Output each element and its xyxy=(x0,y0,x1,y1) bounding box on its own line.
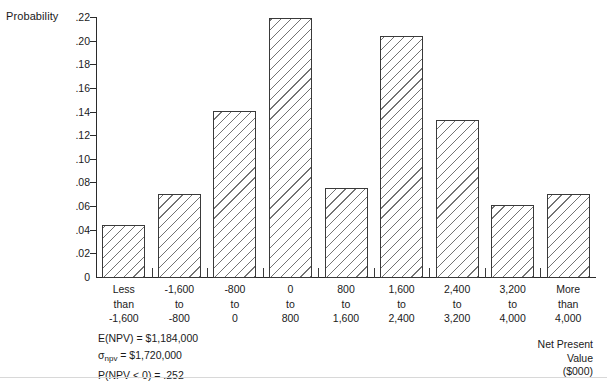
y-axis-tick-mark xyxy=(90,159,97,160)
y-axis-tick-label: .08 xyxy=(60,176,90,188)
y-axis-tick-label: .18 xyxy=(60,58,90,70)
x-axis-caption-line1: Net Present xyxy=(538,338,593,352)
y-axis-tick-label: .06 xyxy=(60,200,90,212)
x-axis-bin-separator xyxy=(429,268,430,278)
x-axis-category-label-line: to xyxy=(429,297,485,312)
y-axis-tick-mark xyxy=(90,182,97,183)
y-axis-tick-label: .02 xyxy=(60,247,90,259)
x-axis-bin-separator xyxy=(207,268,208,278)
y-axis-tick-label: 0 xyxy=(60,271,90,283)
probability-negative-text: P(NPV < 0) = .252 xyxy=(98,367,198,384)
x-axis-category-label-line: 0 xyxy=(263,282,319,297)
x-axis-category-label: -1,600to-800 xyxy=(152,282,208,326)
std-dev-npv-text: σnpv = $1,720,000 xyxy=(98,347,198,368)
y-axis-tick-mark xyxy=(90,112,97,113)
x-axis-category-labels: Lessthan-1,600-1,600to-800-800to00to8008… xyxy=(96,282,596,328)
x-axis-category-label: 2,400to3,200 xyxy=(429,282,485,326)
x-axis-category-label-line: to xyxy=(152,297,208,312)
histogram-bar xyxy=(102,225,145,278)
y-axis-tick-mark xyxy=(90,253,97,254)
y-axis-tick-label: .16 xyxy=(60,82,90,94)
histogram-bar xyxy=(213,111,256,278)
x-axis-category-label-line: 3,200 xyxy=(429,311,485,326)
x-axis-category-label-line: 2,400 xyxy=(374,311,430,326)
x-axis-category-label-line: More xyxy=(540,282,596,297)
x-axis-caption-line2: Value xyxy=(538,352,593,366)
x-axis-category-label-line: 1,600 xyxy=(318,311,374,326)
y-axis-tick-labels: .22.20.18.16.14.12.10.08.06.04.020 xyxy=(58,0,90,386)
histogram-bar xyxy=(380,36,423,278)
x-axis-category-label: 0to800 xyxy=(263,282,319,326)
y-axis-tick-mark xyxy=(90,41,97,42)
y-axis-tick-label: .22 xyxy=(60,11,90,23)
histogram-bar xyxy=(269,18,312,278)
x-axis-category-label-line: -1,600 xyxy=(152,282,208,297)
plot-area xyxy=(96,0,596,278)
x-axis-category-label: -800to0 xyxy=(207,282,263,326)
x-axis-category-label-line: to xyxy=(374,297,430,312)
npv-probability-histogram: Probability .22.20.18.16.14.12.10.08.06.… xyxy=(0,0,607,386)
x-axis-category-label-line: -800 xyxy=(207,282,263,297)
histogram-bar xyxy=(325,188,368,278)
x-axis-category-label-line: 0 xyxy=(207,311,263,326)
sigma-subscript: npv xyxy=(104,354,117,363)
histogram-bar xyxy=(491,205,534,278)
y-axis-tick-mark xyxy=(90,230,97,231)
x-axis-category-label-line: to xyxy=(207,297,263,312)
x-axis-category-label-line: 800 xyxy=(318,282,374,297)
y-axis-tick-label: .12 xyxy=(60,129,90,141)
y-axis-tick-label: .20 xyxy=(60,35,90,47)
x-axis-category-label-line: Less xyxy=(96,282,152,297)
x-axis-category-label-line: 800 xyxy=(263,311,319,326)
x-axis-category-label-line: 4,000 xyxy=(485,311,541,326)
y-axis-tick-mark xyxy=(90,135,97,136)
histogram-bar xyxy=(436,120,479,278)
x-axis-category-label-line: 2,400 xyxy=(429,282,485,297)
x-axis-category-label-line: 1,600 xyxy=(374,282,430,297)
x-axis-category-label-line: to xyxy=(485,297,541,312)
x-axis-category-label: 1,600to2,400 xyxy=(374,282,430,326)
histogram-bar xyxy=(158,194,201,278)
histogram-bar xyxy=(547,194,590,278)
y-axis-tick-mark xyxy=(90,17,97,18)
x-axis-category-label-line: -1,600 xyxy=(96,311,152,326)
y-axis-tick-mark xyxy=(90,88,97,89)
page-divider xyxy=(0,377,607,378)
x-axis-category-label-line: 4,000 xyxy=(540,311,596,326)
std-dev-value: = $1,720,000 xyxy=(117,349,182,361)
x-axis-category-label: Morethan4,000 xyxy=(540,282,596,326)
x-axis-category-label: 800to1,600 xyxy=(318,282,374,326)
y-axis-title: Probability xyxy=(6,10,58,22)
x-axis-bin-separator xyxy=(152,268,153,278)
y-axis-tick-label: .04 xyxy=(60,224,90,236)
x-axis-category-label: 3,200to4,000 xyxy=(485,282,541,326)
x-axis-category-label-line: to xyxy=(263,297,319,312)
x-axis-bin-separator xyxy=(318,268,319,278)
x-axis-category-label: Lessthan-1,600 xyxy=(96,282,152,326)
x-axis-caption: Net Present Value ($000) xyxy=(538,338,593,379)
x-axis-bin-separator xyxy=(374,268,375,278)
x-axis-category-label-line: -800 xyxy=(152,311,208,326)
x-axis-category-label-line: than xyxy=(540,297,596,312)
statistics-annotations: E(NPV) = $1,184,000 σnpv = $1,720,000 P(… xyxy=(98,330,198,384)
x-axis-bin-separator xyxy=(263,268,264,278)
y-axis-tick-label: .14 xyxy=(60,106,90,118)
expected-npv-text: E(NPV) = $1,184,000 xyxy=(98,330,198,347)
x-axis-bin-separator xyxy=(540,268,541,278)
y-axis-tick-label: .10 xyxy=(60,153,90,165)
y-axis-tick-mark xyxy=(90,206,97,207)
x-axis-category-label-line: 3,200 xyxy=(485,282,541,297)
x-axis-bin-separator xyxy=(485,268,486,278)
x-axis-category-label-line: to xyxy=(318,297,374,312)
y-axis-tick-mark xyxy=(90,64,97,65)
x-axis-category-label-line: than xyxy=(96,297,152,312)
